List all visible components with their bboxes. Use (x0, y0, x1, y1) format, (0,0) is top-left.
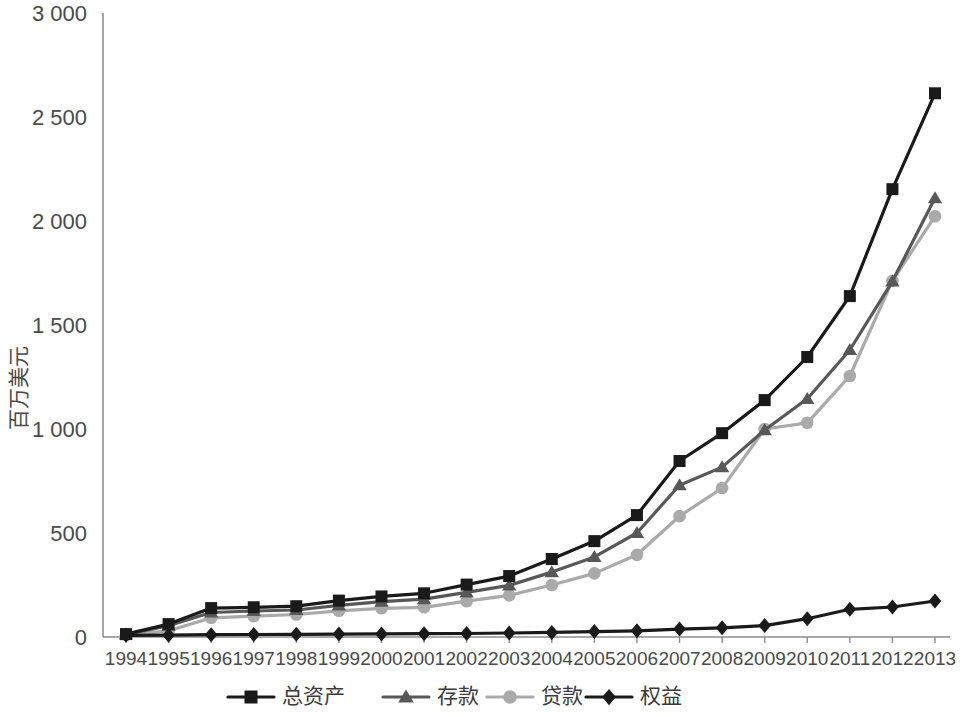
y-tick-label: 2 000 (32, 209, 87, 234)
x-tick-label: 1998 (275, 648, 317, 669)
y-tick-label: 0 (75, 625, 87, 650)
x-tick-label: 2001 (403, 648, 445, 669)
data-point-marker (674, 455, 686, 467)
data-point-marker (418, 587, 430, 599)
legend-label: 权益 (640, 684, 682, 707)
y-tick-label: 3 000 (32, 1, 87, 26)
x-tick-label: 2007 (658, 648, 700, 669)
x-tick-label: 2008 (701, 648, 743, 669)
x-tick-label: 1999 (318, 648, 360, 669)
x-tick-label: 2004 (531, 648, 574, 669)
data-point-marker (163, 618, 175, 630)
data-point-marker (333, 595, 345, 607)
data-point-marker (844, 290, 856, 302)
x-tick-label: 1996 (190, 648, 232, 669)
data-point-marker (461, 579, 473, 591)
data-point-marker (801, 416, 814, 429)
y-tick-label: 1 500 (32, 313, 87, 338)
x-tick-label: 2000 (360, 648, 402, 669)
x-tick-label: 2009 (744, 648, 786, 669)
x-tick-label: 2012 (871, 648, 913, 669)
data-point-marker (844, 370, 857, 383)
y-tick-label: 1 000 (32, 417, 87, 442)
y-tick-label: 500 (50, 521, 87, 546)
data-point-marker (503, 570, 515, 582)
line-chart: 05001 0001 5002 0002 5003 000 1994199519… (0, 0, 963, 717)
x-tick-label: 2011 (829, 648, 870, 669)
legend-label: 存款 (437, 684, 479, 707)
x-tick-label: 1997 (233, 648, 275, 669)
data-point-marker (248, 601, 260, 613)
chart-canvas: 05001 0001 5002 0002 5003 000 1994199519… (0, 0, 963, 717)
data-point-marker (375, 590, 387, 602)
x-tick-label: 2013 (914, 648, 956, 669)
legend-label: 总资产 (282, 684, 345, 707)
data-point-marker (205, 602, 217, 614)
data-point-marker (588, 535, 600, 547)
y-axis-title-text: 百万美元 (7, 346, 30, 430)
data-point-marker (759, 394, 771, 406)
data-point-marker (673, 510, 686, 523)
legend-label: 贷款 (541, 684, 583, 707)
plot-background (0, 0, 963, 717)
data-point-marker (120, 628, 132, 640)
data-point-marker (588, 567, 601, 580)
data-point-marker (716, 427, 728, 439)
x-tick-label: 2010 (786, 648, 828, 669)
x-tick-label: 2005 (573, 648, 615, 669)
x-tick-label: 1995 (147, 648, 189, 669)
data-point-marker (716, 482, 729, 495)
x-tick-label: 1994 (105, 648, 148, 669)
data-point-marker (290, 600, 302, 612)
data-point-marker (886, 183, 898, 195)
y-axis-title: 百万美元 (7, 346, 30, 430)
data-point-marker (631, 549, 644, 562)
x-tick-label: 2003 (488, 648, 530, 669)
data-point-marker (631, 509, 643, 521)
data-point-marker (503, 589, 516, 602)
y-tick-label: 2 500 (32, 105, 87, 130)
data-point-marker (546, 553, 558, 565)
legend-marker-circle-icon (503, 690, 517, 704)
x-tick-label: 2006 (616, 648, 658, 669)
x-tick-label: 2002 (445, 648, 487, 669)
data-point-marker (801, 351, 813, 363)
legend-marker-square-icon (245, 691, 258, 704)
data-point-marker (929, 87, 941, 99)
data-point-marker (545, 579, 558, 592)
data-point-marker (929, 210, 942, 223)
